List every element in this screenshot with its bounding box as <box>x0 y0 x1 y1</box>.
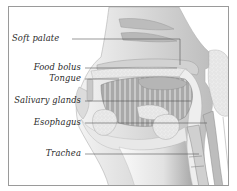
diagram-frame: Soft palate Food bolus Tongue Salivary g… <box>8 6 229 186</box>
salivary-gland <box>153 114 179 139</box>
label-esophagus: Esophagus <box>34 117 81 127</box>
front-teeth <box>87 79 93 101</box>
tube-edge <box>223 117 229 186</box>
label-soft-palate: Soft palate <box>12 33 59 43</box>
label-salivary-glands: Salivary glands <box>14 95 81 105</box>
label-tongue: Tongue <box>49 73 81 83</box>
label-trachea: Trachea <box>46 148 81 158</box>
label-food-bolus: Food bolus <box>34 62 81 72</box>
